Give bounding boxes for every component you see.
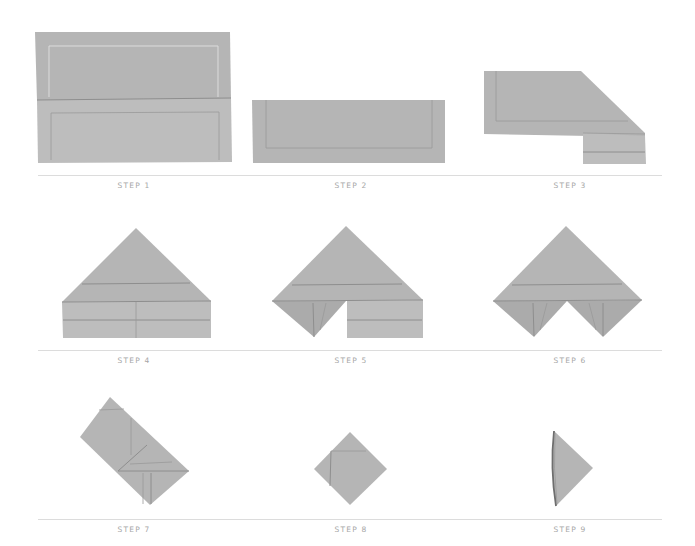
- step-3-illustration: [484, 71, 646, 164]
- step-6-label: STEP 6: [510, 356, 630, 365]
- step-4-illustration: [62, 228, 211, 338]
- step-2-illustration: [252, 100, 445, 163]
- step-2-label: STEP 2: [291, 181, 411, 190]
- step-6-illustration: [493, 226, 642, 337]
- row-2-separator: [38, 350, 662, 351]
- step-5-illustration: [272, 226, 423, 338]
- step-9-illustration: [552, 431, 593, 506]
- step-5-label: STEP 5: [291, 356, 411, 365]
- step-7-label: STEP 7: [74, 525, 194, 534]
- step-9-label: STEP 9: [510, 525, 630, 534]
- step-4-label: STEP 4: [74, 356, 194, 365]
- step-1-label: STEP 1: [74, 181, 194, 190]
- step-1-illustration: [35, 32, 232, 163]
- step-8-illustration: [314, 432, 387, 505]
- step-3-label: STEP 3: [510, 181, 630, 190]
- row-1-separator: [38, 175, 662, 176]
- step-8-label: STEP 8: [291, 525, 411, 534]
- step-7-illustration: [80, 397, 189, 505]
- row-3-separator: [38, 519, 662, 520]
- napkin-fold-illustrations: .f { fill: #b5b5b5; } .fl { fill: #bdbdb…: [0, 0, 695, 546]
